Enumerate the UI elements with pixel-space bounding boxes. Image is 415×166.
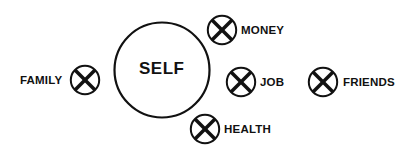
x-circle-icon bbox=[307, 66, 339, 98]
x-circle-icon bbox=[225, 66, 257, 98]
x-circle-icon bbox=[206, 14, 238, 46]
money-label: MONEY bbox=[241, 25, 284, 37]
family-label: FAMILY bbox=[20, 75, 62, 87]
friends-label: FRIENDS bbox=[343, 77, 395, 89]
x-circle-icon bbox=[189, 113, 221, 145]
job-label: JOB bbox=[260, 77, 284, 89]
self-label: SELF bbox=[139, 60, 184, 77]
self-relationship-diagram: SELF FAMILY MONEY JOB FRIENDS HEALTH bbox=[0, 0, 415, 166]
x-circle-icon bbox=[69, 64, 101, 96]
health-label: HEALTH bbox=[224, 124, 271, 136]
